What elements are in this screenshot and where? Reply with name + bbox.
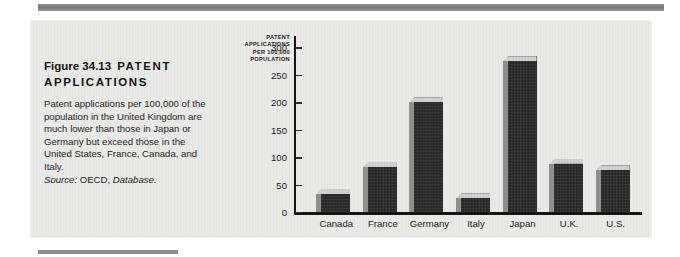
y-tick-label: 100 [271,152,287,163]
source-organization: OECD, [80,174,110,185]
x-label-italy: Italy [467,218,485,229]
figure-source-line: Source: OECD, Database. [44,174,212,187]
figure-body-text: Patent applications per 100,000 of the p… [44,98,212,174]
figure-page: Figure 34.13PATENTAPPLICATIONS Patent ap… [0,0,680,257]
figure-title-word-2: APPLICATIONS [44,74,212,90]
bar-top-face [456,193,490,198]
plot-area: 050100150200250300 CanadaFranceGermanyIt… [294,42,634,212]
figure-title: Figure 34.13PATENTAPPLICATIONS [44,58,212,90]
bar-uk[interactable] [549,159,583,212]
figure-panel: Figure 34.13PATENTAPPLICATIONS Patent ap… [30,20,652,238]
x-label-canada: Canada [319,218,353,229]
bar-front-face [554,159,583,212]
y-axis-title-line-1: PATENT [204,34,290,41]
y-tick-label: 0 [282,207,287,218]
y-tick-label: 300 [271,42,287,53]
y-tick-mark [296,75,302,76]
bar-canada[interactable] [316,189,350,212]
bar-us[interactable] [596,165,630,212]
bar-front-face [601,165,630,212]
source-label: Source: [44,174,77,185]
x-label-japan: Japan [509,218,535,229]
y-tick-label: 200 [271,97,287,108]
y-tick-label: 150 [271,124,287,135]
figure-number: Figure 34.13 [44,60,111,72]
y-tick-mark [296,157,302,158]
bar-front-face [414,97,443,212]
x-label-us: U.S. [606,218,625,229]
y-tick-mark [296,102,302,103]
bar-chart: PATENTAPPLICATIONSPER 100,000POPULATION … [242,28,642,236]
y-tick-label: 50 [276,179,287,190]
bar-top-face [596,165,630,170]
y-tick-mark [296,47,302,48]
x-label-france: France [368,218,398,229]
bar-front-face [508,56,537,212]
x-label-uk: U.K. [560,218,579,229]
bar-top-face [409,97,443,102]
y-tick-mark [296,130,302,131]
bar-germany[interactable] [409,97,443,212]
bar-front-face [368,162,397,212]
bar-top-face [549,159,583,164]
figure-title-word-1: PATENT [117,60,171,72]
bar-japan[interactable] [503,56,537,212]
figure-caption-block: Figure 34.13PATENTAPPLICATIONS Patent ap… [44,58,212,186]
bar-italy[interactable] [456,193,490,212]
x-axis-line [294,212,642,215]
y-axis-title-line-4: POPULATION [204,56,290,63]
top-divider-rule [38,4,664,11]
bar-top-face [503,56,537,61]
source-publication: Database. [113,174,157,185]
bottom-divider-rule [38,250,178,254]
y-tick-label: 250 [271,69,287,80]
bar-france[interactable] [363,162,397,212]
x-label-germany: Germany [410,218,449,229]
bar-top-face [316,189,350,194]
y-tick-mark [296,212,302,213]
bar-top-face [363,162,397,167]
y-tick-mark [296,185,302,186]
